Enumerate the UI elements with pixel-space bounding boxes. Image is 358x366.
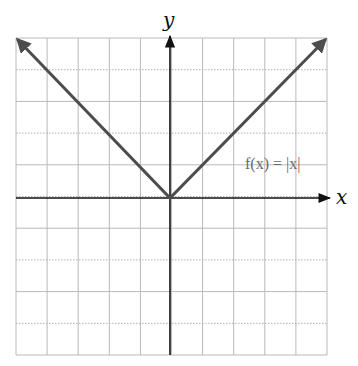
x-axis-label: x [336, 185, 347, 209]
y-axis-label: y [162, 8, 175, 32]
function-label: f(x) = |x| [245, 155, 300, 173]
absolute-value-graph: x y f(x) = |x| [0, 0, 358, 366]
